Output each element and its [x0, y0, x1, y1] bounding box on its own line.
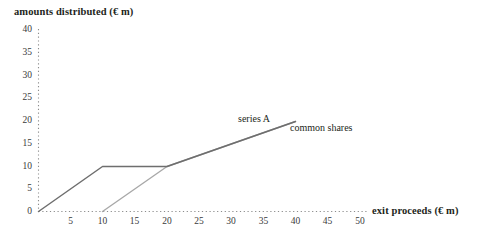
series-label-common-shares: common shares — [290, 122, 353, 133]
y-tick-label-20: 20 — [12, 115, 32, 125]
x-axis-title: exit proceeds (€ m) — [372, 205, 459, 216]
x-tick-label-35: 35 — [255, 216, 273, 226]
x-tick-label-45: 45 — [319, 216, 337, 226]
y-tick-label-30: 30 — [12, 70, 32, 80]
y-tick-label-15: 15 — [12, 138, 32, 148]
x-tick-label-5: 5 — [62, 216, 80, 226]
y-tick-label-40: 40 — [12, 24, 32, 34]
x-tick-label-25: 25 — [190, 216, 208, 226]
x-tick-label-10: 10 — [94, 216, 112, 226]
y-tick-label-0: 0 — [12, 206, 32, 216]
series-label-series-a: series A — [238, 113, 270, 124]
x-tick-label-20: 20 — [158, 216, 176, 226]
y-tick-label-10: 10 — [12, 161, 32, 171]
x-tick-label-50: 50 — [351, 216, 369, 226]
y-tick-label-35: 35 — [12, 47, 32, 57]
chart-container: amounts distributed (€ m) exit proceeds … — [0, 0, 479, 245]
x-tick-label-15: 15 — [126, 216, 144, 226]
y-tick-label-5: 5 — [12, 183, 32, 193]
y-tick-label-25: 25 — [12, 92, 32, 102]
x-tick-label-30: 30 — [222, 216, 240, 226]
y-axis-title: amounts distributed (€ m) — [14, 6, 133, 17]
x-tick-label-40: 40 — [287, 216, 305, 226]
series-line-series-a — [39, 122, 296, 212]
